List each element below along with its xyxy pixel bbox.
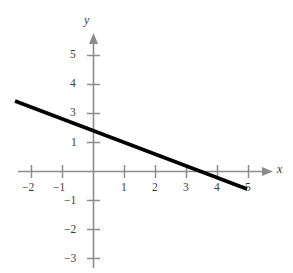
y-tick-label-3: 3 [70, 107, 76, 119]
y-axis [87, 33, 100, 268]
y-axis-label: y [84, 14, 89, 26]
y-tick-label-1: 1 [71, 137, 77, 149]
x-tick-label--1: −1 [53, 182, 65, 194]
x-tick-label--2: −2 [22, 182, 34, 194]
coordinate-plane [0, 0, 293, 273]
y-tick-label--2: −2 [64, 224, 76, 236]
x-tick-label-1: 1 [121, 182, 127, 194]
x-axis-label: x [277, 163, 282, 175]
y-tick-label--1: −1 [64, 195, 76, 207]
y-tick-label-4: 4 [70, 78, 76, 90]
x-tick-label-3: 3 [183, 182, 189, 194]
graph-figure: y x 5 4 3 1 −1 −2 −3 −2 −1 1 2 3 4 5 [0, 0, 293, 273]
x-axis [18, 165, 273, 178]
y-tick-label--3: −3 [64, 253, 76, 265]
data-line-series-1 [15, 101, 247, 189]
x-axis-arrowhead [262, 167, 273, 176]
y-tick-label-5: 5 [70, 49, 76, 61]
x-tick-label-5-hidden: 5 [245, 182, 251, 194]
x-tick-label-4: 4 [214, 182, 220, 194]
x-tick-label-2: 2 [152, 182, 158, 194]
y-axis-arrowhead [89, 33, 98, 44]
